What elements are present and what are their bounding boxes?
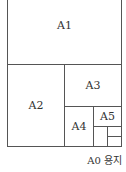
sheet-a1-label: A1 [7,0,122,50]
sheet-a4-label: A4 [64,106,94,147]
sheet-a6 [93,126,108,147]
diagram-caption: A0 용지 [87,152,122,167]
sheet-a8 [107,136,122,147]
sheet-a3-label: A3 [64,64,122,107]
a0-sheet-diagram: A1 A2 A3 A4 A5 [7,0,122,147]
sheet-a2-label: A2 [7,64,65,147]
sheet-a5-label: A5 [93,106,122,127]
